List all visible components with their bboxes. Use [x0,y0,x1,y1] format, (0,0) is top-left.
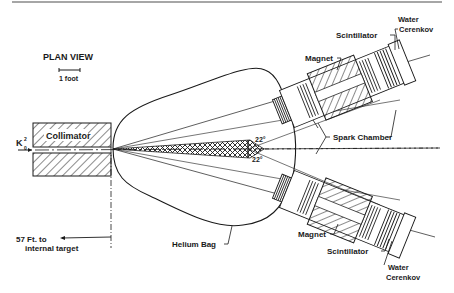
experiment-plan-diagram: PLAN VIEW 1 foot Collimator K 2 0 22° 22… [0,0,454,293]
scintillator-top-label: Scintillator [336,31,377,40]
scale-label: 1 foot [59,75,79,82]
scintillator-bottom-label: Scintillator [327,247,368,256]
water-bottom-label-2: Cerenkov [386,273,421,282]
angle-top-label: 22° [255,136,266,143]
water-top-label-2: Cerenkov [399,25,434,34]
upper-spectrometer-arm [268,37,417,136]
collimator-bottom-block [33,153,111,176]
collimator-label: Collimator [46,131,91,141]
spark-chamber-label: Spark Chamber [333,133,392,142]
distance-arrow [62,237,111,238]
distance-label-line2: internal target [25,244,79,253]
angle-bottom-label: 22° [252,156,263,163]
distance-label-line1: 57 Ft. to [16,235,47,244]
magnet-top-label: Magnet [305,54,333,63]
magnet-bottom-label: Magnet [298,230,326,239]
plan-view-title: PLAN VIEW [43,52,94,62]
helium-bag-label: Helium Bag [172,240,216,249]
water-bottom-label-1: Water [388,263,409,272]
water-top-label-1: Water [398,15,419,24]
beam-label: K [16,138,23,148]
beam-superscript: 2 [24,136,27,142]
